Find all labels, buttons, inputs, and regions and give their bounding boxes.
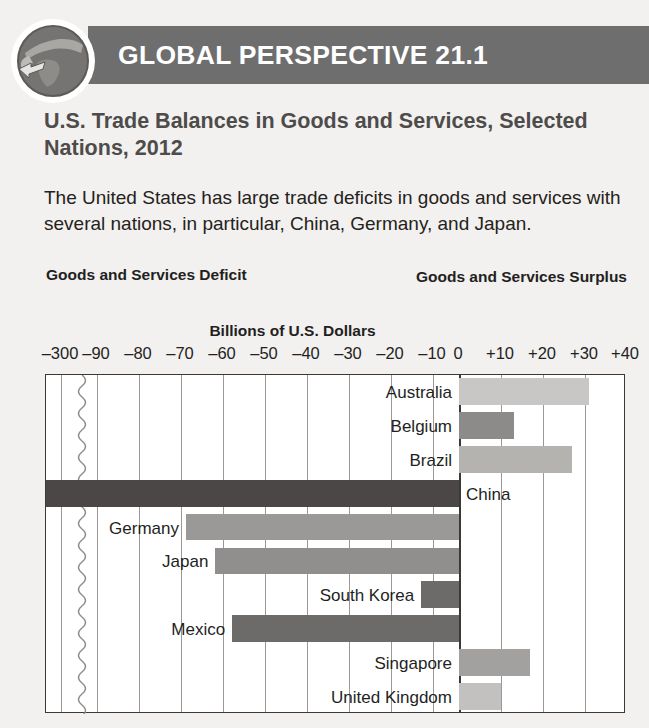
x-tick-label: 0 — [453, 344, 462, 363]
chart-row: Japan — [46, 545, 624, 579]
x-tick-label: –60 — [208, 344, 236, 363]
banner-title: GLOBAL PERSPECTIVE 21.1 — [118, 26, 488, 84]
bar-label: Brazil — [46, 451, 452, 468]
chart-row: Australia — [46, 375, 624, 409]
x-tick-label: –70 — [166, 344, 194, 363]
x-axis-title-text: Billions of U.S. Dollars — [209, 322, 375, 339]
banner: GLOBAL PERSPECTIVE 21.1 — [0, 26, 649, 88]
chart-plot-area: AustraliaBelgiumBrazilChinaGermanyJapanS… — [45, 374, 625, 713]
description-text: The United States has large trade defici… — [44, 185, 624, 237]
x-axis-tick-labels: –300–90–80–70–60–50–40–30–20–100+10+20+3… — [0, 344, 649, 366]
bar-label: China — [466, 485, 510, 502]
bar-label: Belgium — [46, 417, 452, 434]
surplus-caption: Goods and Services Surplus — [407, 266, 627, 288]
x-tick-label: –300 — [42, 344, 79, 363]
x-tick-label: +30 — [570, 344, 598, 363]
x-tick-label: –50 — [250, 344, 278, 363]
bar-germany — [186, 514, 459, 541]
globe-arrow-icon — [11, 19, 95, 103]
bar-label: South Korea — [46, 587, 414, 604]
chart-row: Mexico — [46, 612, 624, 646]
x-tick-label: –10 — [418, 344, 446, 363]
bar-belgium — [459, 412, 514, 439]
x-tick-label: –40 — [292, 344, 320, 363]
chart-row: Belgium — [46, 409, 624, 443]
chart-row: China — [46, 477, 624, 511]
chart-row: United Kingdom — [46, 680, 624, 714]
page-title: U.S. Trade Balances in Goods and Service… — [44, 108, 604, 162]
bar-label: Germany — [46, 519, 179, 536]
chart-row: Singapore — [46, 646, 624, 680]
x-tick-label: –20 — [376, 344, 404, 363]
x-tick-label: –30 — [334, 344, 362, 363]
bar-label: Singapore — [46, 655, 452, 672]
chart-row: Germany — [46, 511, 624, 545]
x-tick-label: +10 — [486, 344, 514, 363]
bar-south-korea — [421, 581, 459, 608]
bar-label: United Kingdom — [46, 689, 452, 706]
bar-united-kingdom — [459, 683, 501, 710]
chart-row: Brazil — [46, 443, 624, 477]
bar-australia — [459, 378, 589, 405]
bar-label: Australia — [46, 383, 452, 400]
bar-singapore — [459, 649, 530, 676]
chart-row: South Korea — [46, 578, 624, 612]
deficit-caption: Goods and Services Deficit — [46, 266, 247, 284]
x-tick-label: –80 — [124, 344, 152, 363]
bar-china — [46, 480, 459, 507]
bar-label: Mexico — [46, 621, 225, 638]
x-axis-title: Billions of U.S. Dollars — [0, 322, 649, 340]
bar-brazil — [459, 446, 572, 473]
x-tick-label: +40 — [611, 344, 639, 363]
bar-japan — [215, 548, 459, 575]
bar-label: Japan — [46, 553, 208, 570]
bar-mexico — [232, 615, 459, 642]
x-tick-label: +20 — [528, 344, 556, 363]
x-tick-label: –90 — [82, 344, 110, 363]
